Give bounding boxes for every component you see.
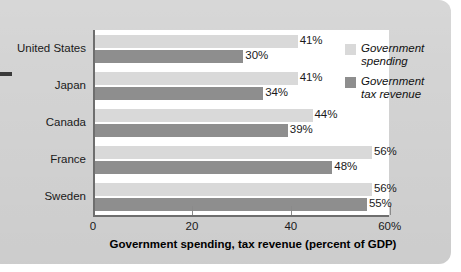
category-label-united-states: United States [0,42,86,54]
bar-value-label: 30% [245,49,268,61]
x-tick-40 [291,206,292,215]
x-tick-20 [192,206,193,215]
category-label-japan: Japan [0,79,86,91]
bar-united-states-tax-revenue [95,50,243,63]
x-axis-title: Government spending, tax revenue (percen… [93,238,413,250]
legend-label-line-2: tax revenue [361,88,424,101]
bar-sweden-tax-revenue [95,198,367,211]
bar-value-label: 39% [290,123,313,135]
bar-japan-tax-revenue [95,87,263,100]
bar-value-label: 56% [374,145,397,157]
bar-value-label: 55% [369,197,392,209]
bar-value-label: 34% [265,86,288,98]
page-edge-mark [0,72,12,76]
x-tick-label-20: 20 [167,220,217,232]
bar-value-label: 48% [334,160,357,172]
bar-value-label: 44% [315,108,338,120]
bar-sweden-spending [95,183,372,196]
bar-japan-spending [95,72,298,85]
legend-label-line-1: Government [361,42,424,55]
x-tick-label-0: 0 [68,220,118,232]
legend-label-spending: Governmentspending [361,42,424,68]
bar-value-label: 56% [374,182,397,194]
x-tick-label-60: 60% [365,220,415,232]
bar-value-label: 41% [300,34,323,46]
legend-swatch-tax-revenue [345,77,356,88]
category-label-france: France [0,153,86,165]
legend-swatch-spending [345,44,356,55]
legend-label-line-1: Government [361,75,424,88]
bar-canada-spending [95,109,313,122]
bar-value-label: 41% [300,71,323,83]
bars-layer [95,30,389,215]
bar-france-spending [95,146,372,159]
bar-united-states-spending [95,35,298,48]
x-axis-line [93,215,389,217]
category-label-sweden: Sweden [0,190,86,202]
x-tick-label-40: 40 [266,220,316,232]
chart-figure: 0204060% United StatesJapanCanadaFranceS… [0,0,461,272]
bar-canada-tax-revenue [95,124,288,137]
bar-france-tax-revenue [95,161,332,174]
category-label-canada: Canada [0,116,86,128]
legend-label-line-2: spending [361,55,424,68]
legend-label-tax-revenue: Governmenttax revenue [361,75,424,101]
plot-area [93,30,389,215]
